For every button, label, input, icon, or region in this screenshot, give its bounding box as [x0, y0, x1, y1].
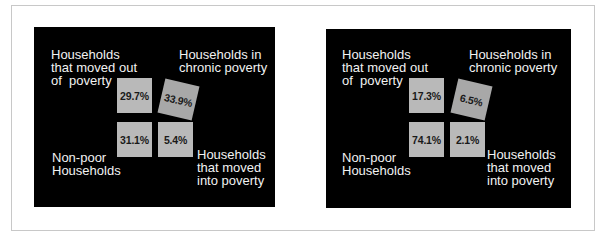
value-box-chronic: 33.9%	[158, 79, 200, 121]
label-moved-into-poverty: Households that moved into poverty	[197, 148, 266, 187]
label-non-poor-households: Non-poor Households	[342, 151, 411, 177]
label-chronic-poverty: Households in chronic poverty	[469, 48, 557, 74]
label-non-poor-households: Non-poor Households	[52, 151, 121, 177]
label-moved-into-poverty: Households that moved into poverty	[487, 148, 556, 187]
value-box-non-poor: 31.1%	[117, 122, 152, 157]
value-box-moved-into: 5.4%	[158, 122, 193, 157]
label-chronic-poverty: Households in chronic poverty	[179, 48, 267, 74]
value-box-moved-into: 2.1%	[450, 122, 485, 157]
value-box-chronic: 6.5%	[451, 79, 493, 121]
value-box-moved-out: 17.3%	[409, 78, 444, 113]
poverty-transition-panel-right: Households that moved out of poverty Hou…	[326, 29, 571, 208]
value-box-non-poor: 74.1%	[409, 122, 444, 157]
poverty-transition-panel-left: Households that moved out of poverty Hou…	[34, 27, 275, 207]
value-box-moved-out: 29.7%	[117, 78, 152, 113]
